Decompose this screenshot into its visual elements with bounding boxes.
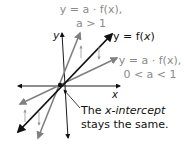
x-intercept-point (58, 83, 62, 87)
label-shrink-equation: y = a · f(x), 0 < a < 1 (117, 55, 183, 81)
x-axis-label: x (112, 89, 118, 101)
stretch-equation: y = a · f(x), (58, 4, 124, 16)
y-axis-label: y (53, 30, 60, 42)
line-a-between-0-and-1 (20, 58, 117, 104)
callout-line-1: The x-intercept (81, 104, 169, 118)
shrink-equation: y = a · f(x), (117, 55, 183, 67)
callout-line-2: stays the same. (81, 118, 169, 132)
label-stretch-equation: y = a · f(x), a > 1 (58, 4, 124, 30)
stretch-condition: a > 1 (58, 18, 124, 30)
callout-note: The x-intercept stays the same. (81, 104, 169, 132)
label-base-function: y = f(x) (113, 31, 155, 43)
shrink-condition: 0 < a < 1 (117, 69, 183, 81)
